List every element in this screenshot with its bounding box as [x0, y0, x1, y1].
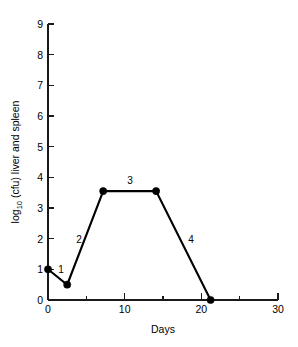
data-point: [100, 188, 107, 195]
x-axis-title: Days: [151, 323, 175, 335]
y-tick-label: 7: [37, 79, 43, 91]
line-chart: 0 1 2 3 4 5 6 7 8 9 log10 (cfu) liver an…: [0, 0, 298, 347]
phase-label-2: 2: [76, 234, 82, 245]
x-tick-label: 10: [119, 303, 131, 315]
data-point: [44, 266, 51, 273]
chart-figure: 0 1 2 3 4 5 6 7 8 9 log10 (cfu) liver an…: [0, 0, 298, 347]
y-tick-label: 2: [37, 233, 43, 245]
y-axis-title-suffix: (cfu) liver and spleen: [9, 100, 21, 201]
data-point: [64, 281, 71, 288]
phase-label-3: 3: [127, 175, 133, 186]
y-tick-label: 1: [37, 263, 43, 275]
y-axis-title-subscript: 10: [15, 201, 24, 209]
phase-label-4: 4: [188, 234, 194, 245]
y-axis-title: log10 (cfu) liver and spleen: [9, 100, 24, 223]
y-axis-title-prefix: log: [9, 209, 21, 223]
y-tick-label: 5: [37, 141, 43, 153]
x-axis-ticks: [48, 293, 278, 300]
y-tick-label: 3: [37, 202, 43, 214]
x-axis-tick-labels: 0 10 20 30: [45, 303, 284, 315]
y-axis-ticks: [48, 24, 54, 300]
x-tick-label: 30: [272, 303, 284, 315]
x-tick-label: 20: [195, 303, 207, 315]
x-axis: 0 10 20 30 Days: [45, 293, 284, 335]
y-tick-label: 9: [37, 18, 43, 30]
series-line: [48, 191, 211, 300]
y-axis: 0 1 2 3 4 5 6 7 8 9 log10 (cfu) liver an…: [9, 18, 54, 306]
y-axis-tick-labels: 0 1 2 3 4 5 6 7 8 9: [37, 18, 43, 306]
data-point: [207, 296, 214, 303]
data-series: [44, 188, 214, 304]
y-tick-label: 0: [37, 294, 43, 306]
y-tick-label: 8: [37, 49, 43, 61]
y-tick-label: 6: [37, 110, 43, 122]
phase-label-1: 1: [58, 264, 64, 275]
data-point: [153, 188, 160, 195]
x-tick-label: 0: [45, 303, 51, 315]
y-tick-label: 4: [37, 171, 43, 183]
